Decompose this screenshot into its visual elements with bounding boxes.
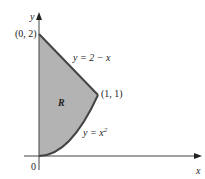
line-equation-label: y = 2 − x bbox=[72, 52, 111, 63]
y-axis-arrow-icon bbox=[36, 12, 42, 20]
parabola-equation-label: y = x2 bbox=[82, 126, 108, 138]
parabola-exponent: 2 bbox=[104, 126, 108, 134]
x-axis-arrow-icon bbox=[194, 153, 202, 159]
point-label-1-1: (1, 1) bbox=[101, 88, 123, 100]
x-axis-label: x bbox=[195, 165, 201, 176]
point-label-0-2: (0, 2) bbox=[15, 28, 37, 40]
origin-label: 0 bbox=[31, 161, 36, 172]
parabola-equation-text: y = x bbox=[82, 127, 104, 138]
y-axis-label: y bbox=[29, 11, 35, 22]
region-diagram: y x 0 (0, 2) (1, 1) R y = 2 − x y = x2 bbox=[0, 0, 205, 179]
region-label: R bbox=[57, 97, 65, 108]
